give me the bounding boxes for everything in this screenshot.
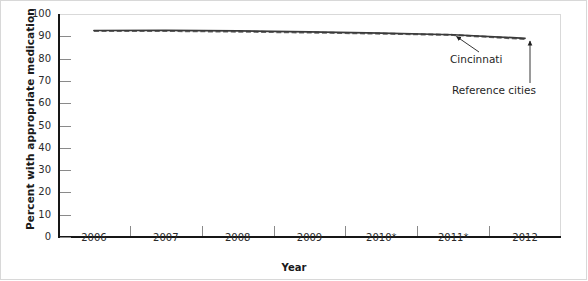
y-tick-label-0: 0 <box>11 232 51 242</box>
y-tick-label-80: 80 <box>11 54 51 64</box>
y-tick-label-60: 60 <box>11 98 51 108</box>
x-tick-label-2: 2008 <box>203 232 273 243</box>
y-tick-label-50: 50 <box>11 121 51 131</box>
x-tick-label-6: 2012 <box>490 232 560 243</box>
x-axis-title: Year <box>0 262 588 273</box>
y-tick-label-10: 10 <box>11 210 51 220</box>
annotation-label-cincinnati: Cincinnati <box>450 53 502 65</box>
x-tick-label-1: 2007 <box>131 232 201 243</box>
y-tick-label-100: 100 <box>11 9 51 19</box>
y-tick-label-30: 30 <box>11 165 51 175</box>
x-tick-label-5: 2011* <box>418 232 488 243</box>
plot-area <box>58 14 561 237</box>
chart-figure: Percent with appropriate medication 1009… <box>0 0 588 281</box>
x-tick-label-0: 2006 <box>59 232 129 243</box>
y-tick-label-90: 90 <box>11 31 51 41</box>
y-tick-label-20: 20 <box>11 187 51 197</box>
series-group <box>58 14 561 237</box>
annotation-label-reference-cities: Reference cities <box>452 84 536 96</box>
y-tick-label-40: 40 <box>11 143 51 153</box>
x-tick-label-4: 2010* <box>346 232 416 243</box>
x-tick-label-3: 2009 <box>275 232 345 243</box>
y-tick-label-70: 70 <box>11 76 51 86</box>
